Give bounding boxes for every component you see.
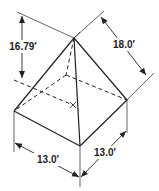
dimension-slant: 18.0′ [101,17,146,75]
label-base-left: 13.0′ [37,154,59,165]
dimension-height: 16.79′ [6,16,40,78]
dimension-base-left: 13.0′ [15,143,79,177]
label-height: 16.79′ [9,41,37,52]
center-mark [70,102,76,108]
pyramid-diagram: 16.79′ 18.0′ 13.0′ 13.0′ [0,0,159,191]
label-slant: 18.0′ [113,39,135,50]
label-base-right: 13.0′ [94,147,116,158]
